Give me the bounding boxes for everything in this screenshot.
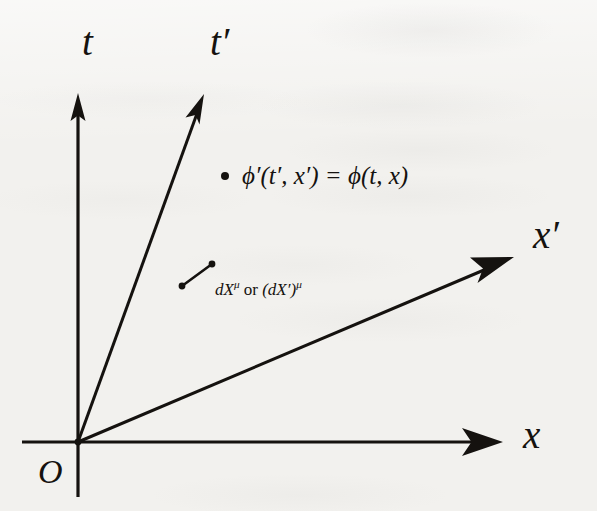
t-prime-axis-label: t′ — [210, 22, 229, 61]
t-prime-axis — [78, 94, 204, 442]
x-axis — [22, 428, 503, 456]
equals-sign: = — [319, 162, 348, 189]
spacetime-diagram-figure: t t′ x x′ O ϕ′(t′, x′) = ϕ(t, x) dXμ or … — [0, 0, 597, 511]
displacement-segment — [179, 261, 216, 290]
dx-primed-symbol: (dX′) — [262, 280, 296, 299]
diagram-vector-layer — [0, 0, 597, 511]
displacement-tail-dot — [179, 283, 186, 290]
t-axis-label: t — [82, 22, 93, 61]
dx-primed-index: μ — [296, 278, 302, 290]
x-prime-axis-arrowhead — [470, 257, 514, 283]
t-prime-axis-line — [78, 108, 199, 442]
phi-symbol: ϕ — [348, 162, 361, 189]
x-axis-label: x — [523, 415, 540, 454]
displacement-label: dXμ or (dX′)μ — [215, 281, 302, 298]
origin-label: O — [38, 455, 63, 489]
field-equality-label: ϕ′(t′, x′) = ϕ(t, x) — [242, 163, 408, 188]
displacement-head-dot — [209, 261, 216, 268]
x-prime-axis-label: x′ — [533, 215, 559, 254]
dx-unprimed-symbol: dX — [215, 280, 234, 299]
origin-point — [75, 439, 82, 446]
field-point-dot — [221, 172, 229, 180]
phi-prime-arguments: (t′, x′) — [260, 162, 318, 189]
t-axis — [71, 93, 86, 497]
dx-conjunction: or — [240, 280, 263, 299]
phi-prime-symbol: ϕ′ — [242, 162, 260, 189]
phi-arguments: (t, x) — [361, 162, 408, 189]
displacement-segment-line — [182, 264, 212, 286]
